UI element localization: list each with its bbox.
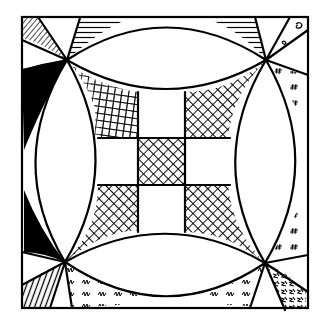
cell-bottom-left-wing <box>65 185 138 262</box>
cell-center <box>138 138 185 185</box>
cell-top-right-wing <box>185 60 266 138</box>
quilt-block-drawing <box>0 0 329 326</box>
swirl-motif <box>296 23 302 28</box>
top-left-diagonal-hatch <box>22 17 67 60</box>
cell-top-left-wing <box>67 60 138 138</box>
bottom-wave-scribbles <box>65 262 160 308</box>
dot-motif <box>282 41 286 44</box>
cell-bottom-right-wing <box>185 185 265 263</box>
